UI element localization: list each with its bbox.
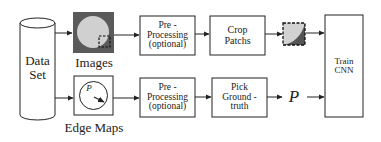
preproc-top-line3: (optional)	[149, 40, 186, 50]
pick-line3: truth	[231, 102, 249, 112]
dataset-label: Data Set	[20, 48, 55, 88]
preproc-bottom-line3: (optional)	[149, 102, 186, 112]
dataset-line1: Data	[25, 54, 50, 68]
pick-label: Pick Ground - truth	[212, 78, 267, 117]
crop-label: Crop Patchs	[210, 16, 265, 55]
dataset-line2: Set	[29, 68, 46, 82]
train-line2: CNN	[334, 66, 353, 75]
images-label: Images	[66, 56, 122, 70]
edge-map-thumbnail	[74, 76, 113, 115]
crop-line2: Patchs	[224, 36, 250, 47]
train-label: Train CNN	[325, 52, 363, 80]
patch-icon	[283, 23, 305, 45]
preproc-bottom-label: Pre - Processing (optional)	[140, 78, 195, 117]
preproc-top-label: Pre - Processing (optional)	[140, 16, 195, 55]
edge-map-p-glyph: P	[83, 84, 95, 93]
images-thumbnail	[73, 12, 114, 53]
edge-maps-label: Edge Maps	[60, 121, 128, 135]
crop-line1: Crop	[228, 25, 248, 36]
p-symbol: P	[286, 88, 302, 106]
